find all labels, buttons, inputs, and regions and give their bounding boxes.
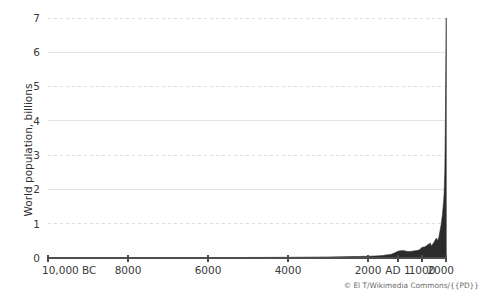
- y-tick-label-1: 1: [33, 218, 40, 230]
- y-tick-label-6: 6: [33, 46, 40, 58]
- y-tick-label-0: 0: [33, 252, 40, 264]
- x-tick-label-3: 4000: [275, 264, 302, 276]
- x-tick-label-4: 2000: [355, 264, 382, 276]
- attribution-label: © El T/Wikimedia Commons/{{PD}}: [344, 281, 479, 290]
- population-chart-figure: 01234567 10,000 BC8000600040002000AD 110…: [0, 0, 483, 304]
- y-tick-label-5: 5: [33, 80, 40, 92]
- x-tick-label-5: AD 1: [385, 264, 410, 276]
- x-tick-label-2: 6000: [195, 264, 222, 276]
- y-axis-title: World population, billions: [22, 84, 34, 217]
- chart-canvas: 01234567 10,000 BC8000600040002000AD 110…: [0, 0, 483, 304]
- y-tick-label-3: 3: [33, 149, 40, 161]
- y-tick-label-4: 4: [33, 115, 40, 127]
- x-tick-label-1: 8000: [115, 264, 142, 276]
- x-tick-label-0: 10,000 BC: [42, 264, 96, 276]
- x-tick-label-7: 2000: [427, 264, 454, 276]
- y-tick-label-2: 2: [33, 183, 40, 195]
- y-tick-label-7: 7: [33, 12, 40, 24]
